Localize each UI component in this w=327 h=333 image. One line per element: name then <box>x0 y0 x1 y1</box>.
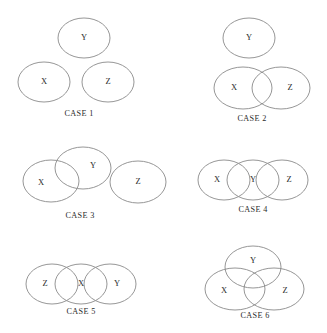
case-5-set-x-label: X <box>78 278 84 288</box>
case-1: YXZCASE 1 <box>18 18 134 118</box>
case-1-set-x-label: X <box>41 76 47 86</box>
case-2: YXZCASE 2 <box>214 18 310 123</box>
case-3-set-x-label: X <box>38 177 44 187</box>
case-6-set-x-ellipse <box>205 268 265 310</box>
case-3-set-x-ellipse <box>23 160 79 202</box>
case-6-set-y-ellipse <box>225 246 281 288</box>
case-4-set-z-ellipse <box>256 160 308 200</box>
case-6-set-z-ellipse <box>244 268 304 310</box>
case-4-set-y-label: Y <box>250 174 256 184</box>
venn-diagram-figure: YXZCASE 1YXZCASE 2XYZCASE 3XYZCASE 4ZXYC… <box>0 0 327 333</box>
case-5-set-y-ellipse <box>84 264 136 304</box>
case-3-caption: CASE 3 <box>65 211 94 220</box>
case-5-set-y-label: Y <box>114 278 120 288</box>
case-4-caption: CASE 4 <box>238 205 267 214</box>
case-2-set-x-label: X <box>231 82 237 92</box>
case-5: ZXYCASE 5 <box>26 264 136 316</box>
case-2-set-x-ellipse <box>214 67 272 109</box>
case-2-set-y-label: Y <box>246 32 252 42</box>
case-2-caption: CASE 2 <box>237 114 266 123</box>
case-1-caption: CASE 1 <box>64 109 93 118</box>
case-4-set-x-ellipse <box>198 160 250 200</box>
case-1-set-y-label: Y <box>81 32 87 42</box>
venn-diagram-canvas: YXZCASE 1YXZCASE 2XYZCASE 3XYZCASE 4ZXYC… <box>0 0 327 333</box>
case-4-set-z-label: Z <box>286 174 291 184</box>
case-3-set-y-label: Y <box>90 160 96 170</box>
case-3: XYZCASE 3 <box>23 147 166 220</box>
case-1-set-z-label: Z <box>105 76 110 86</box>
case-6-caption: CASE 6 <box>240 311 269 320</box>
case-2-set-z-ellipse <box>252 67 310 109</box>
case-2-set-z-label: Z <box>287 82 292 92</box>
case-6-set-x-label: X <box>221 285 227 295</box>
case-4: XYZCASE 4 <box>198 160 308 214</box>
case-6-set-z-label: Z <box>282 285 287 295</box>
case-6-set-y-label: Y <box>250 255 256 265</box>
case-3-set-y-ellipse <box>55 147 111 189</box>
case-3-set-z-label: Z <box>135 176 140 186</box>
case-4-set-x-label: X <box>214 174 220 184</box>
case-5-set-z-ellipse <box>26 264 78 304</box>
case-5-caption: CASE 5 <box>66 307 95 316</box>
case-5-set-z-label: Z <box>42 278 47 288</box>
case-6: YXZCASE 6 <box>205 246 304 320</box>
